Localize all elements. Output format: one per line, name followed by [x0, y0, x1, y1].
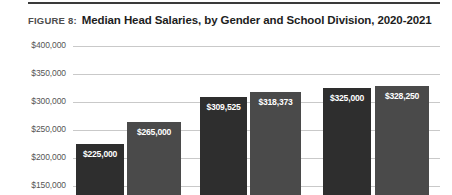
- bar-value-label: $318,373: [250, 97, 301, 107]
- bar-series: $225,000$265,000$309,525$318,373$325,000…: [0, 32, 452, 195]
- bar: $225,000: [76, 144, 124, 195]
- bar-value-label: $328,250: [375, 91, 429, 101]
- bar-value-label: $325,000: [323, 93, 371, 103]
- page-title: Median Head Salaries, by Gender and Scho…: [82, 14, 432, 26]
- bar-value-label: $265,000: [127, 127, 181, 137]
- header-divider: [28, 2, 440, 4]
- bar: $328,250: [375, 86, 429, 195]
- bar: $265,000: [127, 122, 181, 195]
- bar: $325,000: [323, 88, 371, 195]
- bar-value-label: $225,000: [76, 149, 124, 159]
- bar: $318,373: [250, 92, 301, 195]
- figure-container: FIGURE 8:Median Head Salaries, by Gender…: [0, 0, 452, 195]
- figure-number-label: FIGURE 8:: [28, 15, 77, 26]
- bar-value-label: $309,525: [200, 102, 247, 112]
- bar: $309,525: [200, 97, 247, 195]
- figure-title-line: FIGURE 8:Median Head Salaries, by Gender…: [28, 10, 446, 26]
